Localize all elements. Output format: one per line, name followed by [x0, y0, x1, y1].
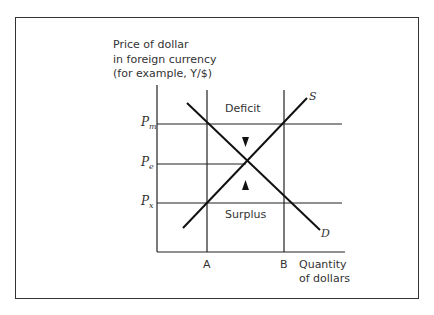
arrow-up-icon: [242, 180, 249, 190]
surplus-label: Surplus: [225, 208, 266, 222]
x-axis-label-1: Quantity: [299, 258, 347, 272]
arrow-down-icon: [242, 137, 249, 147]
supply-demand-diagram: [0, 0, 434, 315]
deficit-label: Deficit: [225, 102, 261, 116]
y-axis-label-3: (for example, Y/$): [113, 67, 212, 81]
quantity-mark-b: B: [280, 258, 288, 272]
demand-label: D: [321, 227, 330, 241]
price-label-pe: Pe: [141, 155, 154, 174]
price-label-pm: Pm: [141, 115, 157, 134]
x-axis-label-2: of dollars: [299, 272, 350, 286]
quantity-mark-a: A: [203, 258, 211, 272]
supply-label: S: [309, 90, 317, 104]
y-axis-label-1: Price of dollar: [113, 38, 189, 52]
price-label-px: Px: [141, 194, 154, 213]
y-axis-label-2: in foreign currency: [113, 53, 217, 67]
